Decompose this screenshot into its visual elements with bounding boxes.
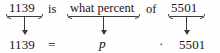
arrow-shaft [186,20,187,31]
statement-phrase-what-percent: what percent [70,2,134,15]
brace-stem [24,16,25,22]
statement-number-right: 5501 [171,1,197,14]
arrow-head [184,30,190,35]
underbrace-right-number [168,14,205,21]
underbrace-what-percent [67,14,140,21]
underbrace-left-number [6,14,43,21]
percent-translation-figure: 1139 is what percent of 5501 1139 = p [0,0,220,53]
equation-variable-p: p [99,37,106,51]
mapping-arrow-left-number [21,20,28,35]
arrow-shaft [24,20,25,31]
equation-number-left: 1139 [9,38,35,51]
mapping-arrow-right-number [183,20,190,35]
mapping-arrow-what-percent [100,20,107,35]
statement-word-of: of [146,3,156,16]
brace-stem [186,16,187,22]
brace-stem [103,16,104,22]
brace-tip-right [200,14,205,19]
statement-word-is: is [48,3,56,16]
brace-bar [170,16,203,17]
equation-multiplication-dot: · [159,37,163,50]
brace-bar [69,16,138,17]
statement-number-left: 1139 [9,1,35,14]
brace-bar [8,16,41,17]
arrow-head [101,30,107,35]
arrow-shaft [103,20,104,31]
equation-number-right: 5501 [179,38,205,51]
arrow-head [22,30,28,35]
brace-tip-right [135,14,140,19]
brace-tip-right [38,14,43,19]
equation-equals-sign: = [48,38,55,51]
